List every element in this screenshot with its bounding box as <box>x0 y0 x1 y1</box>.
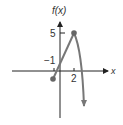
function-graph: f(x) x 5 −1 2 <box>0 0 123 125</box>
tick-label-neg1: −1 <box>44 55 56 66</box>
y-axis-label: f(x) <box>52 5 66 16</box>
curve-segment <box>74 33 84 106</box>
tick-label-2: 2 <box>71 73 77 84</box>
closed-point-start <box>50 76 56 82</box>
closed-point-peak <box>71 30 77 36</box>
x-axis-label: x <box>110 66 116 76</box>
tick-label-5: 5 <box>50 28 56 39</box>
